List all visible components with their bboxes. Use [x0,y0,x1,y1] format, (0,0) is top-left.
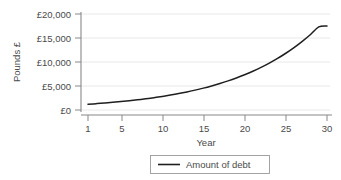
y-tick-label-20000: £20,000 [37,9,71,20]
y-axis [75,12,81,112]
legend-label-amount-of-debt: Amount of debt [186,159,251,170]
chart-canvas: £20,000 £15,000 £10,000 £5,000 £0 Pounds… [0,0,341,180]
y-tick-label-5000: £5,000 [42,81,71,92]
x-tick-label-10: 10 [158,123,169,134]
legend: Amount of debt [151,156,270,174]
x-tick-label-15: 15 [199,123,210,134]
y-tick-label-15000: £15,000 [37,33,71,44]
x-tick-label-1: 1 [85,123,90,134]
gridlines [81,14,330,110]
x-axis [81,115,332,121]
x-tick-label-5: 5 [119,123,124,134]
x-axis-title: Year [196,137,215,148]
y-tick-labels: £20,000 £15,000 £10,000 £5,000 £0 [37,9,71,116]
y-axis-title: Pounds £ [11,41,22,82]
x-tick-label-25: 25 [281,123,292,134]
x-tick-labels: 1 5 10 15 20 25 30 [85,123,332,134]
x-tick-label-20: 20 [240,123,251,134]
debt-growth-line-chart: £20,000 £15,000 £10,000 £5,000 £0 Pounds… [0,0,341,180]
x-tick-label-30: 30 [322,123,333,134]
y-tick-label-10000: £10,000 [37,57,71,68]
y-tick-label-0: £0 [60,105,71,116]
